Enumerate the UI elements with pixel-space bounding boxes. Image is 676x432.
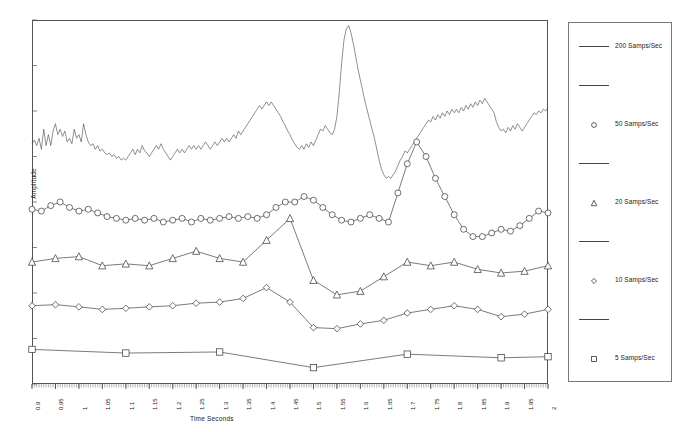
x-tick-label: 1.9 [504, 402, 510, 410]
x-tick-label: 1.8 [457, 402, 463, 410]
legend-key [577, 37, 611, 57]
x-tick-label: 1 [82, 407, 88, 410]
legend-item[interactable] [569, 310, 673, 330]
x-tick-label: 1.6 [363, 402, 369, 410]
legend-item[interactable] [569, 232, 673, 252]
legend-key [577, 271, 611, 291]
legend-key [577, 232, 611, 252]
legend-key [577, 193, 611, 213]
legend-item[interactable] [569, 76, 673, 96]
legend-item[interactable]: 20 Samps/Sec [569, 193, 673, 213]
legend-item[interactable]: 50 Samps/Sec [569, 115, 673, 135]
legend-line-swatch [579, 319, 609, 320]
diamond-marker [591, 278, 596, 283]
y-axis-label: Amplitude [30, 139, 37, 229]
square-legend-marker [590, 355, 598, 363]
circle-legend-marker [590, 121, 598, 129]
legend-item[interactable] [569, 154, 673, 174]
legend-label: 200 Samps/Sec [615, 42, 662, 49]
legend-item[interactable]: 10 Samps/Sec [569, 271, 673, 291]
plot-area [32, 20, 548, 384]
chart-legend: 200 Samps/Sec50 Samps/Sec20 Samps/Sec10 … [568, 22, 672, 382]
x-tick-label: 1.2 [176, 402, 182, 410]
circle-marker [592, 123, 597, 128]
x-tick-label: 1.25 [199, 398, 205, 410]
x-tick-label: 1.5 [316, 402, 322, 410]
x-tick-label: 2 [551, 407, 557, 410]
x-tick-label: 0.95 [58, 398, 64, 410]
legend-line-swatch [579, 46, 609, 47]
x-tick-label: 1.75 [434, 398, 440, 410]
x-tick-label: 1.55 [340, 398, 346, 410]
square-marker [592, 357, 597, 362]
x-tick-label: 1.65 [387, 398, 393, 410]
x-tick-label: 1.7 [410, 402, 416, 410]
legend-item[interactable]: 200 Samps/Sec [569, 37, 673, 57]
x-tick-label: 1.15 [152, 398, 158, 410]
legend-key [577, 349, 611, 369]
chart-root: Amplitude Time Seconds 0.90.9511.051.11.… [0, 0, 676, 432]
legend-key [577, 115, 611, 135]
legend-line-swatch [579, 241, 609, 242]
x-tick-label: 1.05 [105, 398, 111, 410]
x-tick-label: 1.95 [528, 398, 534, 410]
legend-label: 5 Samps/Sec [615, 354, 655, 361]
legend-label: 10 Samps/Sec [615, 276, 658, 283]
x-tick-label: 1.4 [270, 402, 276, 410]
x-tick-label: 1.1 [129, 402, 135, 410]
legend-key [577, 310, 611, 330]
x-tick-label: 1.35 [246, 398, 252, 410]
x-axis-label: Time Seconds [190, 415, 234, 422]
x-tick-label: 0.9 [35, 402, 41, 410]
legend-key [577, 154, 611, 174]
legend-line-swatch [579, 163, 609, 164]
x-tick-label: 1.45 [293, 398, 299, 410]
legend-line-swatch [579, 85, 609, 86]
legend-key [577, 76, 611, 96]
legend-item[interactable]: 5 Samps/Sec [569, 349, 673, 369]
legend-label: 50 Samps/Sec [615, 120, 658, 127]
triangle-marker [591, 200, 596, 205]
x-axis-tick-labels: 0.90.9511.051.11.151.21.251.31.351.41.45… [32, 386, 548, 416]
diamond-legend-marker [590, 277, 598, 285]
triangle-legend-marker [590, 199, 598, 207]
x-tick-label: 1.85 [481, 398, 487, 410]
legend-label: 20 Samps/Sec [615, 198, 658, 205]
x-tick-label: 1.3 [223, 402, 229, 410]
